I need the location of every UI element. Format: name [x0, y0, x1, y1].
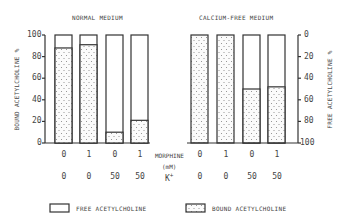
left-ytick: 0 — [37, 138, 42, 147]
right-k-value: 50 — [243, 172, 261, 181]
right-ytick: 40 — [304, 73, 314, 82]
right-morphine-value: 1 — [268, 150, 286, 159]
left-ytick: 80 — [32, 52, 42, 61]
legend-free-swatch — [50, 204, 69, 212]
k-row-label: K+ — [165, 171, 173, 183]
left-chart-title: NORMAL MEDIUM — [72, 14, 123, 21]
right-ytick: 80 — [304, 116, 314, 125]
left-morphine-value: 0 — [55, 150, 73, 159]
left-ytick: 60 — [32, 73, 42, 82]
left-k-value: 0 — [80, 172, 98, 181]
right-ytick: 20 — [304, 52, 314, 61]
right-ytick: 0 — [304, 30, 309, 39]
left-ytick: 40 — [32, 95, 42, 104]
right-morphine-value: 1 — [217, 150, 235, 159]
left-morphine-value: 0 — [106, 150, 124, 159]
left-morphine-value: 1 — [131, 150, 149, 159]
morphine-row-label: MORPHINE — [155, 152, 184, 159]
right-ytick: 60 — [304, 95, 314, 104]
legend-bound-label: BOUND ACETYLCHOLINE — [212, 205, 286, 212]
right-bars — [191, 35, 285, 143]
left-k-value: 0 — [55, 172, 73, 181]
left-ytick: 20 — [32, 116, 42, 125]
chart-canvas — [0, 0, 346, 222]
left-y-axis-label: BOUND ACETYLCHOLINE % — [13, 42, 20, 138]
left-k-value: 50 — [131, 172, 149, 181]
legend-free-label: FREE ACETYLCHOLINE — [76, 205, 146, 212]
unit-row-label: (mM) — [162, 163, 176, 170]
right-chart-title: CALCIUM-FREE MEDIUM — [199, 14, 273, 21]
right-ytick: 100 — [300, 138, 314, 147]
right-morphine-value: 0 — [191, 150, 209, 159]
left-k-value: 50 — [106, 172, 124, 181]
left-morphine-value: 1 — [80, 150, 98, 159]
right-k-value: 0 — [217, 172, 235, 181]
right-k-value: 0 — [191, 172, 209, 181]
left-bars — [55, 35, 148, 143]
right-k-value: 50 — [268, 172, 286, 181]
legend-bound-swatch — [186, 204, 205, 212]
left-ytick: 100 — [27, 30, 41, 39]
right-morphine-value: 0 — [243, 150, 261, 159]
right-y-axis-label: FREE ACETYLCHOLINE % — [326, 42, 333, 138]
